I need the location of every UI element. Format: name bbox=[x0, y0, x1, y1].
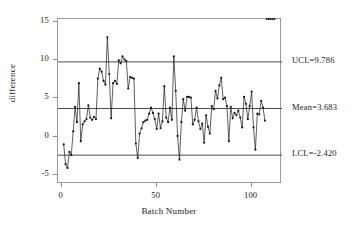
data-point bbox=[176, 135, 178, 137]
data-point bbox=[245, 103, 247, 105]
data-point bbox=[72, 130, 74, 132]
data-point bbox=[171, 119, 173, 121]
data-point bbox=[167, 121, 169, 123]
data-point bbox=[104, 84, 106, 86]
data-point bbox=[235, 114, 237, 116]
data-point bbox=[228, 140, 230, 142]
data-point bbox=[110, 117, 112, 119]
data-point bbox=[270, 18, 272, 20]
data-point bbox=[195, 107, 197, 109]
data-point bbox=[146, 119, 148, 121]
data-point bbox=[251, 90, 253, 92]
data-point bbox=[207, 126, 209, 128]
data-point bbox=[178, 158, 180, 160]
data-point bbox=[252, 126, 254, 128]
data-point bbox=[108, 73, 110, 75]
data-point bbox=[209, 132, 211, 134]
data-point bbox=[135, 142, 137, 144]
x-tick-label: 0 bbox=[41, 190, 81, 200]
data-point bbox=[264, 120, 266, 122]
data-point bbox=[203, 142, 205, 144]
y-tick-label: 5 bbox=[21, 91, 49, 101]
data-point bbox=[66, 167, 68, 169]
data-point bbox=[68, 151, 70, 153]
data-point bbox=[93, 116, 95, 118]
data-point bbox=[154, 118, 156, 120]
y-axis-title: difference bbox=[7, 47, 17, 119]
y-tick-label: -5 bbox=[21, 168, 49, 178]
reference-label-mean: Mean=3.683 bbox=[292, 102, 337, 112]
data-point bbox=[127, 87, 129, 89]
data-point bbox=[243, 96, 245, 98]
data-point bbox=[82, 123, 84, 125]
data-point bbox=[159, 127, 161, 129]
data-point bbox=[262, 107, 264, 109]
data-point bbox=[133, 77, 135, 79]
data-point bbox=[192, 123, 194, 125]
data-point bbox=[116, 83, 118, 85]
data-point bbox=[91, 119, 93, 121]
data-point bbox=[131, 77, 133, 79]
data-point bbox=[218, 84, 220, 86]
data-point bbox=[163, 85, 165, 87]
data-point bbox=[271, 18, 273, 20]
data-point bbox=[201, 123, 203, 125]
data-point bbox=[173, 55, 175, 57]
data-point bbox=[112, 82, 114, 84]
data-point bbox=[114, 80, 116, 82]
data-point bbox=[273, 18, 275, 20]
data-point bbox=[188, 96, 190, 98]
data-point bbox=[180, 121, 182, 123]
x-tick-label: 50 bbox=[136, 190, 176, 200]
data-point bbox=[249, 105, 251, 107]
data-point bbox=[63, 143, 65, 145]
data-point bbox=[70, 154, 72, 156]
series-line bbox=[64, 37, 265, 168]
data-point bbox=[205, 114, 207, 116]
data-point bbox=[97, 77, 99, 79]
data-point bbox=[150, 107, 152, 109]
data-point bbox=[129, 76, 131, 78]
y-tick-label: 10 bbox=[21, 53, 49, 63]
data-point bbox=[78, 82, 80, 84]
data-point bbox=[220, 77, 222, 79]
control-chart: difference Batch Number -5051015 050100 … bbox=[0, 0, 354, 227]
data-point bbox=[237, 110, 239, 112]
plot-area bbox=[57, 18, 281, 183]
data-point bbox=[64, 163, 66, 165]
data-point bbox=[268, 18, 270, 20]
data-point bbox=[152, 112, 154, 114]
data-point bbox=[102, 80, 104, 82]
data-point bbox=[266, 18, 268, 20]
data-point bbox=[99, 68, 101, 70]
data-point bbox=[182, 98, 184, 100]
data-point bbox=[76, 121, 78, 123]
data-point bbox=[213, 108, 215, 110]
data-point bbox=[226, 105, 228, 107]
data-point bbox=[120, 62, 122, 64]
data-point bbox=[165, 116, 167, 118]
data-point bbox=[230, 106, 232, 108]
data-point bbox=[148, 113, 150, 115]
data-point bbox=[121, 55, 123, 57]
data-point bbox=[140, 127, 142, 129]
data-point bbox=[199, 128, 201, 130]
data-point bbox=[247, 118, 249, 120]
data-point bbox=[80, 140, 82, 142]
data-point bbox=[258, 113, 260, 115]
data-point bbox=[232, 117, 234, 119]
data-point bbox=[175, 90, 177, 92]
data-point bbox=[222, 98, 224, 100]
data-point bbox=[239, 116, 241, 118]
data-point bbox=[216, 97, 218, 99]
data-point bbox=[87, 104, 89, 106]
data-point bbox=[233, 112, 235, 114]
data-point bbox=[118, 59, 120, 61]
data-point bbox=[211, 105, 213, 107]
data-point bbox=[89, 116, 91, 118]
data-point bbox=[254, 149, 256, 151]
reference-label-lcl: LCL=-2.420 bbox=[292, 148, 337, 158]
data-point bbox=[260, 100, 262, 102]
reference-label-ucl: UCL=9.786 bbox=[292, 55, 335, 65]
data-point bbox=[214, 90, 216, 92]
